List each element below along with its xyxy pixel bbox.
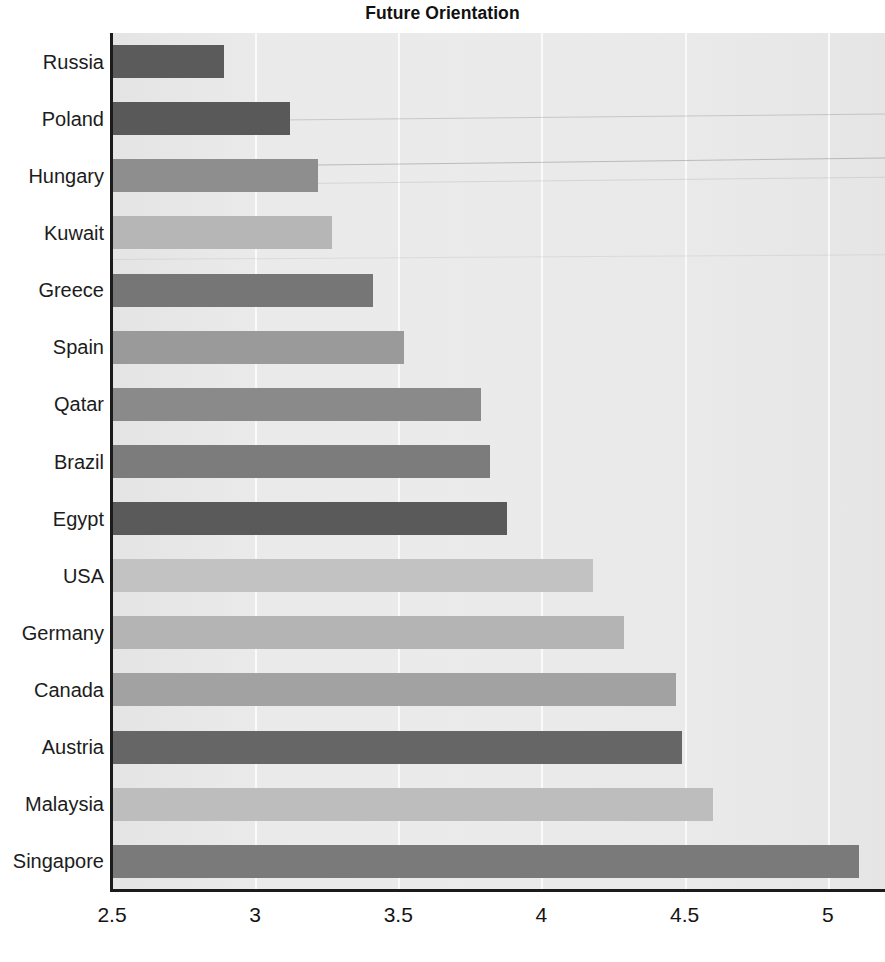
bar-brazil <box>112 445 490 478</box>
bar-row <box>112 90 885 147</box>
bar-row <box>112 604 885 661</box>
bar-chart-figure: Future Orientation RussiaPolandHungaryKu… <box>0 0 885 962</box>
y-tick-label-spain: Spain <box>0 337 104 357</box>
y-tick-label-hungary: Hungary <box>0 166 104 186</box>
bar-qatar <box>112 388 481 421</box>
y-tick-label-egypt: Egypt <box>0 509 104 529</box>
bar-germany <box>112 616 624 649</box>
bar-row <box>112 833 885 890</box>
y-tick-label-germany: Germany <box>0 623 104 643</box>
y-tick-label-brazil: Brazil <box>0 452 104 472</box>
bar-malaysia <box>112 788 713 821</box>
plot-area <box>112 33 885 890</box>
y-tick-label-malaysia: Malaysia <box>0 794 104 814</box>
bar-hungary <box>112 159 318 192</box>
bar-usa <box>112 559 593 592</box>
bar-poland <box>112 102 290 135</box>
y-tick-label-singapore: Singapore <box>0 851 104 871</box>
x-tick-label-5: 5 <box>822 901 834 928</box>
bar-row <box>112 147 885 204</box>
y-tick-label-kuwait: Kuwait <box>0 223 104 243</box>
x-axis-line <box>110 889 885 892</box>
x-tick-label-4: 4 <box>536 901 548 928</box>
y-tick-label-canada: Canada <box>0 680 104 700</box>
y-axis-line <box>110 33 113 891</box>
x-tick-label-3: 3 <box>249 901 261 928</box>
bar-row <box>112 33 885 90</box>
x-tick-label-3-5: 3.5 <box>384 901 413 928</box>
bar-row <box>112 319 885 376</box>
chart-title: Future Orientation <box>0 3 885 24</box>
x-tick-label-4-5: 4.5 <box>670 901 699 928</box>
y-tick-label-austria: Austria <box>0 737 104 757</box>
bars-layer <box>112 33 885 890</box>
bar-egypt <box>112 502 507 535</box>
y-tick-label-qatar: Qatar <box>0 394 104 414</box>
bar-row <box>112 204 885 261</box>
bar-greece <box>112 274 373 307</box>
bar-singapore <box>112 845 859 878</box>
bar-austria <box>112 731 682 764</box>
bar-row <box>112 661 885 718</box>
bar-kuwait <box>112 216 332 249</box>
bar-row <box>112 433 885 490</box>
bar-row <box>112 547 885 604</box>
x-axis-tick-labels: 2.533.544.55 <box>0 901 885 941</box>
y-tick-label-greece: Greece <box>0 280 104 300</box>
bar-row <box>112 262 885 319</box>
bar-row <box>112 776 885 833</box>
bar-row <box>112 719 885 776</box>
x-tick-label-2-5: 2.5 <box>97 901 126 928</box>
bar-russia <box>112 45 224 78</box>
y-axis-tick-labels: RussiaPolandHungaryKuwaitGreeceSpainQata… <box>0 33 104 890</box>
bar-spain <box>112 331 404 364</box>
y-tick-label-poland: Poland <box>0 109 104 129</box>
bar-row <box>112 490 885 547</box>
y-tick-label-russia: Russia <box>0 52 104 72</box>
y-tick-label-usa: USA <box>0 566 104 586</box>
bar-row <box>112 376 885 433</box>
bar-canada <box>112 673 676 706</box>
